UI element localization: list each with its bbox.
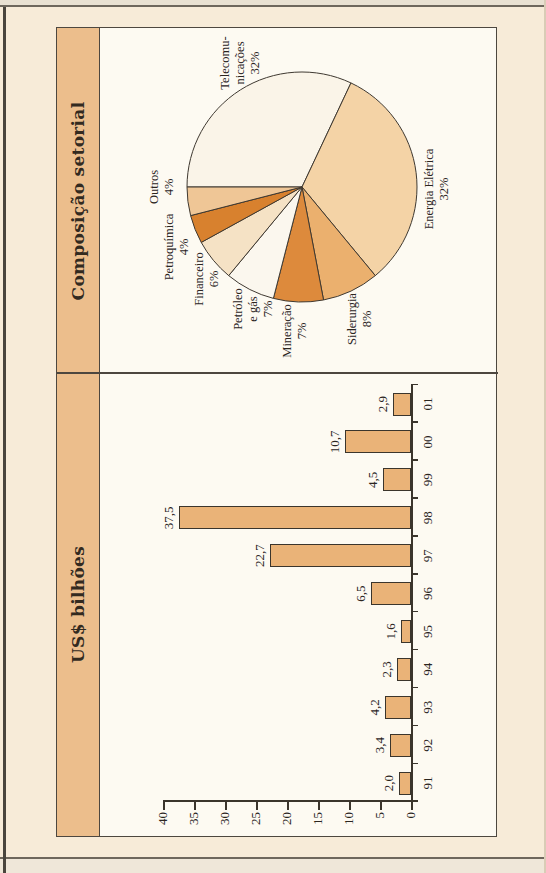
x-tick (411, 459, 418, 461)
rotated-plate: US$ bilhões Composição setorial 05101520… (0, 0, 546, 873)
x-category-label-93: 93 (420, 685, 436, 729)
x-category-label-00: 00 (420, 420, 436, 464)
x-tick (411, 573, 418, 575)
x-category-label-99: 99 (420, 458, 436, 502)
page-gutter (0, 859, 546, 873)
bar-value-label-94: 2,3 (379, 647, 395, 691)
x-category-label-96: 96 (420, 572, 436, 616)
bar-98 (179, 506, 412, 529)
x-tick (411, 687, 418, 689)
x-category-label-91: 91 (420, 761, 436, 805)
bar-94 (397, 658, 411, 681)
x-tick (411, 535, 418, 537)
bar-96 (371, 582, 411, 605)
bar-chart: 05101520253035402,0913,4924,2932,3941,69… (101, 373, 496, 836)
bar-panel-title: US$ bilhões (57, 373, 99, 836)
bar-value-label-93: 4,2 (367, 685, 383, 729)
y-tick (163, 802, 165, 810)
pie-chart: Telecomu- nicações 32%Energia Elétrica 3… (101, 29, 496, 373)
bar-value-label-99: 4,5 (365, 458, 381, 502)
x-axis (411, 385, 413, 802)
y-tick-label: 30 (217, 812, 233, 842)
x-category-label-94: 94 (420, 647, 436, 691)
page-edge-line (3, 0, 6, 873)
bar-value-label-92: 3,4 (372, 723, 388, 767)
bar-97 (270, 544, 411, 567)
bar-value-label-97: 22,7 (252, 534, 268, 578)
pie-label-Siderurgia: Siderurgia 8% (345, 264, 375, 374)
y-tick (256, 802, 258, 810)
pie-label-Outros: Outros 4% (147, 132, 177, 242)
y-tick (225, 802, 227, 810)
bar-value-label-91: 2,0 (381, 761, 397, 805)
pie-panel-title: Composição setorial (57, 29, 99, 373)
figure-frame: US$ bilhões Composição setorial 05101520… (56, 27, 497, 837)
y-tick-label: 25 (248, 812, 264, 842)
x-category-label-92: 92 (420, 723, 436, 767)
bar-95 (401, 620, 411, 643)
y-tick-label: 15 (310, 812, 326, 842)
bar-value-label-95: 1,6 (383, 609, 399, 653)
pie-label-Petróleo e gás: Petróleo e gás 7% (231, 254, 276, 364)
x-tick (411, 763, 418, 765)
y-tick-label: 5 (372, 812, 388, 842)
bar-value-label-00: 10,7 (327, 420, 343, 464)
page-edge-margin (0, 0, 546, 5)
x-category-label-01: 01 (420, 382, 436, 426)
scanned-page: US$ bilhões Composição setorial 05101520… (0, 0, 546, 873)
page-edge-line-2 (0, 5, 546, 7)
y-tick (349, 802, 351, 810)
bar-01 (393, 393, 411, 416)
y-tick (318, 802, 320, 810)
bar-value-label-01: 2,9 (375, 382, 391, 426)
y-tick-label: 20 (279, 812, 295, 842)
pie-label-Energia Elétrica: Energia Elétrica 32% (422, 134, 452, 244)
bar-value-label-98: 37,5 (161, 496, 177, 540)
x-tick (411, 725, 418, 727)
bar-99 (383, 468, 411, 491)
y-tick (287, 802, 289, 810)
x-tick (411, 422, 418, 424)
pie-label-Financeiro: Financeiro 6% (192, 224, 222, 334)
y-tick (411, 802, 413, 810)
x-tick (411, 801, 418, 803)
y-tick-label: 0 (403, 812, 419, 842)
y-tick-label: 40 (155, 812, 171, 842)
page-gutter-line (0, 857, 546, 859)
y-tick-label: 35 (186, 812, 202, 842)
x-tick (411, 649, 418, 651)
bar-value-label-96: 6,5 (353, 572, 369, 616)
x-tick (411, 384, 418, 386)
y-tick (194, 802, 196, 810)
x-tick (411, 611, 418, 613)
bar-92 (390, 734, 411, 757)
pie-label-Mineração: Mineração 7% (280, 276, 310, 386)
bar-00 (345, 430, 411, 453)
x-category-label-97: 97 (420, 534, 436, 578)
x-category-label-95: 95 (420, 609, 436, 653)
y-tick-label: 10 (341, 812, 357, 842)
x-tick (411, 497, 418, 499)
pie-label-Telecomunicações: Telecomu- nicações 32% (218, 8, 263, 118)
bar-93 (385, 696, 411, 719)
x-category-label-98: 98 (420, 496, 436, 540)
bar-91 (399, 772, 411, 795)
